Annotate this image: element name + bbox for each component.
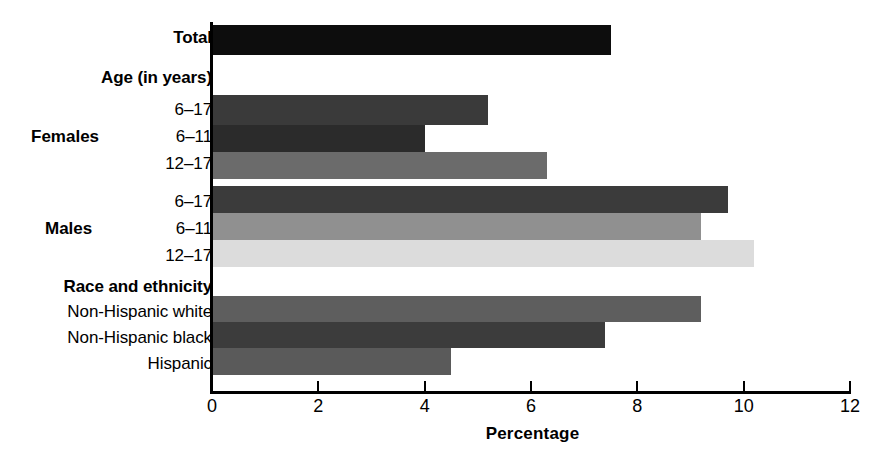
bar-females-6-11 (212, 125, 425, 152)
category-label-males-6-11: 6–11 (176, 220, 212, 237)
x-axis-tick (849, 381, 851, 391)
x-axis-title: Percentage (212, 424, 853, 444)
category-label-total: Total (173, 29, 212, 46)
category-label-males-12-17: 12–17 (165, 247, 212, 264)
bar-non-hispanic-black (212, 322, 605, 348)
x-axis-tick-label: 8 (617, 396, 657, 416)
plot-area (212, 18, 873, 393)
x-axis-tick (743, 381, 745, 391)
bar-non-hispanic-white (212, 296, 701, 322)
x-axis-tick-label: 10 (724, 396, 764, 416)
category-label-hispanic: Hispanic (148, 355, 212, 372)
x-axis-tick (211, 381, 213, 391)
group-label-males: Males (45, 220, 92, 237)
x-axis-tick (424, 381, 426, 391)
x-axis-tick-label: 0 (192, 396, 232, 416)
bar-females-6-17 (212, 95, 488, 125)
x-axis-line (210, 391, 851, 394)
horizontal-bar-chart: Total Age (in years) 6–17 6–11 12–17 6–1… (0, 0, 873, 467)
x-axis-tick (636, 381, 638, 391)
category-label-nh-black: Non-Hispanic black (67, 329, 212, 346)
bar-males-6-17 (212, 186, 728, 213)
x-axis-tick-label: 4 (405, 396, 445, 416)
section-header-age: Age (in years) (101, 69, 212, 86)
bar-hispanic (212, 348, 451, 375)
group-label-females: Females (31, 128, 99, 145)
x-axis-tick-label: 2 (298, 396, 338, 416)
x-axis-tick-label: 6 (511, 396, 551, 416)
bar-males-12-17 (212, 240, 754, 267)
y-axis-line (210, 22, 213, 393)
category-label-females-12-17: 12–17 (165, 155, 212, 172)
x-axis-tick-label: 12 (830, 396, 870, 416)
x-axis-tick (530, 381, 532, 391)
section-header-race: Race and ethnicity (64, 278, 212, 295)
category-label-females-6-11: 6–11 (176, 128, 212, 145)
bar-total (212, 25, 611, 55)
bar-males-6-11 (212, 213, 701, 240)
category-label-females-6-17: 6–17 (175, 101, 212, 118)
bar-females-12-17 (212, 152, 547, 179)
x-axis-tick (317, 381, 319, 391)
category-label-males-6-17: 6–17 (175, 193, 212, 210)
category-label-nh-white: Non-Hispanic white (67, 303, 212, 320)
